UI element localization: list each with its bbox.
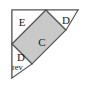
label-region-e: E bbox=[19, 16, 26, 28]
figure-canvas: E C D D rev bbox=[0, 0, 86, 87]
label-region-d-top: D bbox=[62, 14, 70, 26]
label-region-c: C bbox=[38, 36, 45, 48]
label-region-d-rev-subscript: rev bbox=[12, 62, 24, 72]
geometric-figure: E C D D rev bbox=[0, 0, 86, 87]
